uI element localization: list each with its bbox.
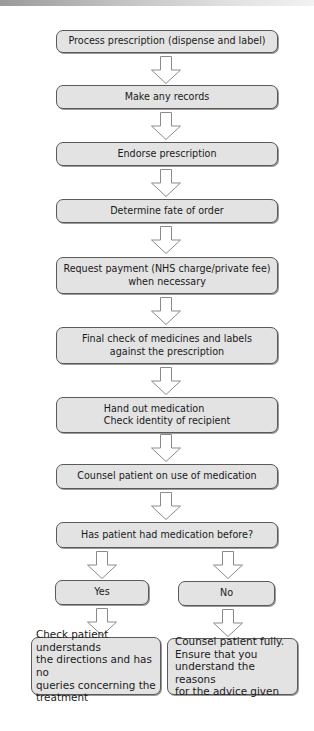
down-arrow-icon — [150, 56, 182, 84]
step-make-records: Make any records — [56, 85, 278, 109]
down-arrow-icon — [86, 551, 118, 579]
top-gradient-band — [0, 0, 314, 6]
outcome-yes-check-understanding: Check patient understands the directions… — [31, 637, 161, 695]
down-arrow-icon — [212, 609, 244, 637]
down-arrow-icon — [150, 492, 182, 520]
step-hand-out-medication: Hand out medication Check identity of re… — [56, 397, 278, 433]
step-hand-out-text: Hand out medication Check identity of re… — [104, 403, 231, 428]
down-arrow-icon — [150, 367, 182, 395]
step-process-prescription: Process prescription (dispense and label… — [56, 30, 278, 53]
down-arrow-icon — [150, 169, 182, 197]
down-arrow-icon — [150, 112, 182, 140]
step-determine-fate: Determine fate of order — [56, 199, 278, 223]
step-endorse-prescription: Endorse prescription — [56, 142, 278, 166]
outcome-no-counsel-fully: Counsel patient fully. Ensure that you u… — [167, 638, 298, 695]
branch-yes: Yes — [55, 580, 149, 605]
down-arrow-icon — [212, 551, 244, 579]
branch-no: No — [178, 581, 275, 606]
down-arrow-icon — [150, 434, 182, 462]
down-arrow-icon — [150, 297, 182, 325]
step-final-check: Final check of medicines and labels agai… — [56, 327, 278, 364]
step-counsel-patient: Counsel patient on use of medication — [56, 464, 278, 489]
decision-had-medication-before: Has patient had medication before? — [56, 522, 278, 548]
step-request-payment: Request payment (NHS charge/private fee)… — [56, 257, 278, 294]
down-arrow-icon — [150, 226, 182, 254]
